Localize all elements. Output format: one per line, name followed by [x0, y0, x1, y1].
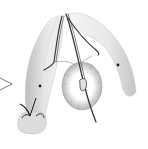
- right-eye-spot: [117, 64, 120, 67]
- illustration: Scientific engraving of an anatomical sp…: [0, 0, 148, 149]
- pointer-arrow-icon: [0, 78, 12, 90]
- specimen-drawing: [0, 0, 148, 149]
- left-eye-spot: [39, 85, 42, 88]
